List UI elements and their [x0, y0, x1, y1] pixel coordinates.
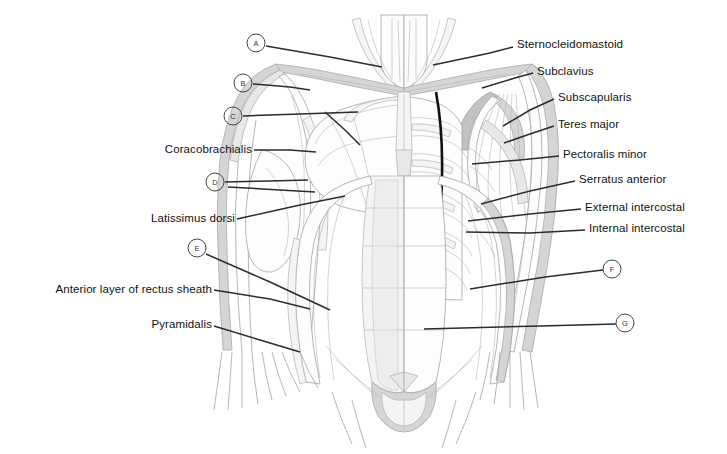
label-subclavius[interactable]: Subclavius	[537, 66, 594, 78]
letter-marker-E[interactable]: E	[188, 239, 207, 258]
label-anterior-rectus-sheath[interactable]: Anterior layer of rectus sheath	[55, 284, 212, 296]
label-subscapularis[interactable]: Subscapularis	[558, 92, 632, 104]
letter-marker-F[interactable]: F	[603, 260, 622, 279]
label-external-intercostal[interactable]: External intercostal	[585, 202, 685, 214]
label-pyramidalis[interactable]: Pyramidalis	[151, 319, 212, 331]
letter-marker-B[interactable]: B	[234, 74, 253, 93]
label-pectoralis-minor[interactable]: Pectoralis minor	[563, 149, 647, 161]
letter-marker-A[interactable]: A	[247, 34, 266, 53]
label-serratus-anterior[interactable]: Serratus anterior	[579, 174, 666, 186]
label-internal-intercostal[interactable]: Internal intercostal	[589, 223, 685, 235]
label-teres-major[interactable]: Teres major	[558, 119, 619, 131]
right-forearm-strips	[480, 352, 538, 410]
label-coracobrachialis[interactable]: Coracobrachialis	[165, 144, 252, 156]
label-latissimus-dorsi[interactable]: Latissimus dorsi	[151, 213, 235, 225]
label-sternocleidomastoid[interactable]: Sternocleidomastoid	[517, 39, 623, 51]
sternum-midline	[396, 92, 412, 176]
letter-marker-D[interactable]: D	[206, 173, 225, 192]
rectus-abdominis	[362, 176, 446, 393]
letter-marker-G[interactable]: G	[616, 314, 635, 333]
anatomy-figure: .o { fill:none; stroke:#a3a3a3; stroke-w…	[0, 0, 727, 454]
leader-letter-G	[424, 324, 616, 329]
neck-region	[352, 15, 456, 90]
letter-marker-C[interactable]: C	[224, 107, 243, 126]
